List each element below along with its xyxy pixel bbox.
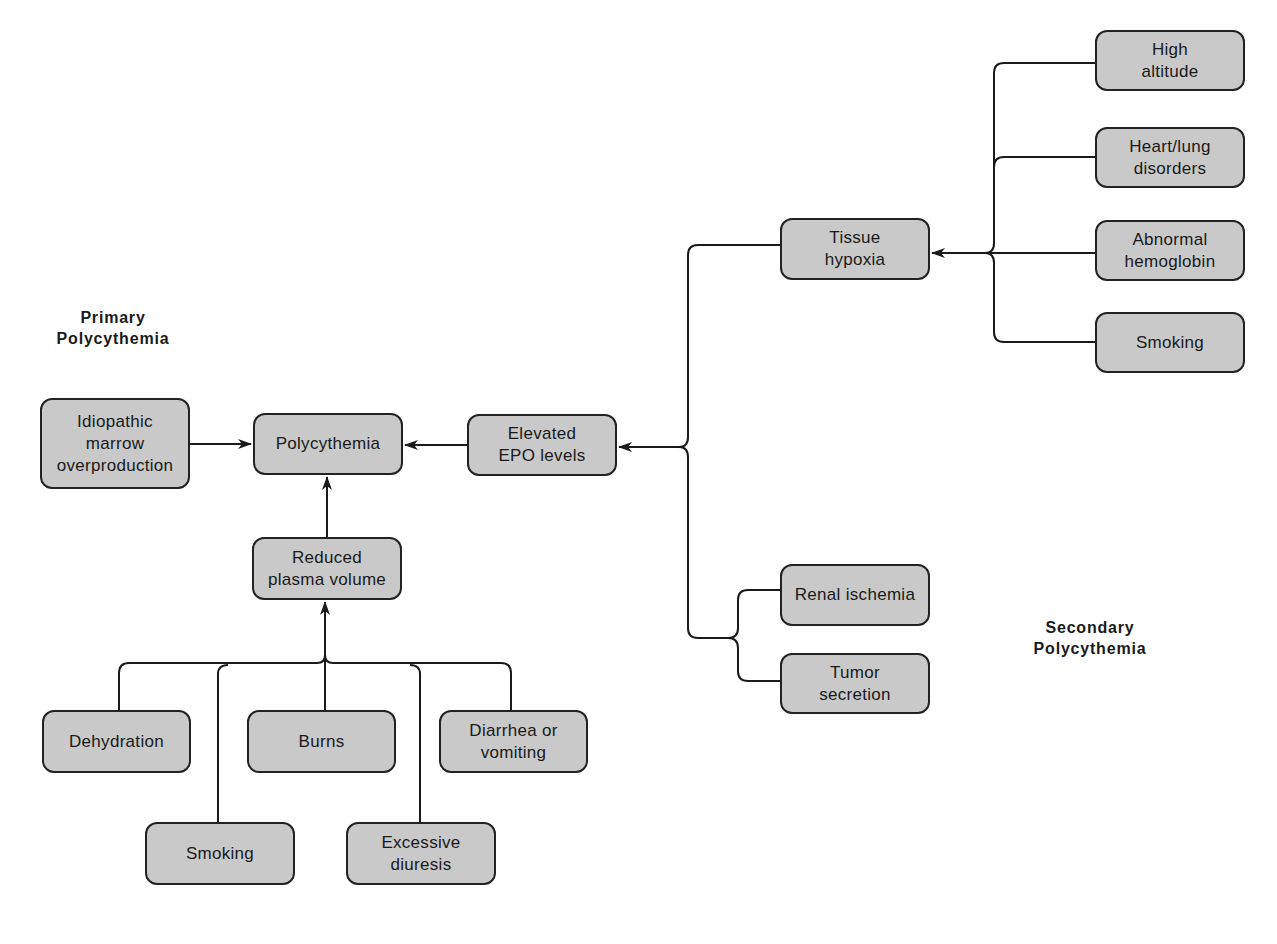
- node-smoking-secondary: Smoking: [1095, 312, 1245, 373]
- secondary-polycythemia-label: Secondary Polycythemia: [1020, 617, 1160, 659]
- primary-polycythemia-label: Primary Polycythemia: [48, 307, 178, 349]
- node-diarrhea-or-vomiting: Diarrhea or vomiting: [439, 710, 588, 773]
- edge-renal-to-branch: [728, 590, 780, 638]
- edge-hypoxia-to-epo: [679, 245, 780, 447]
- node-idiopathic-marrow-overproduction: Idiopathic marrow overproduction: [40, 398, 190, 489]
- connector-layer: [0, 0, 1277, 944]
- edge-diuresis-to-plasma: [410, 665, 420, 822]
- node-tissue-hypoxia: Tissue hypoxia: [780, 218, 930, 280]
- edge-smoking-to-hypoxia: [985, 253, 1095, 342]
- node-smoking-primary: Smoking: [145, 822, 295, 885]
- edge-dehydration-to-plasma: [119, 655, 325, 710]
- edge-smoking-to-plasma: [218, 665, 228, 822]
- node-renal-ischemia: Renal ischemia: [780, 564, 930, 626]
- edge-heartlung-to-hypoxia: [994, 157, 1095, 243]
- edge-tumor-to-branch: [728, 638, 780, 681]
- node-abnormal-hemoglobin: Abnormal hemoglobin: [1095, 220, 1245, 281]
- node-polycythemia: Polycythemia: [253, 413, 403, 475]
- node-heart-lung-disorders: Heart/lung disorders: [1095, 127, 1245, 188]
- node-dehydration: Dehydration: [42, 710, 191, 773]
- node-high-altitude: High altitude: [1095, 30, 1245, 91]
- node-tumor-secretion: Tumor secretion: [780, 653, 930, 714]
- edge-diarrhea-to-plasma: [325, 655, 511, 710]
- node-burns: Burns: [247, 710, 396, 773]
- node-reduced-plasma-volume: Reduced plasma volume: [252, 537, 402, 600]
- edge-renal-tumor-to-epo: [679, 447, 730, 638]
- node-elevated-epo-levels: Elevated EPO levels: [467, 414, 617, 476]
- node-excessive-diuresis: Excessive diuresis: [346, 822, 496, 885]
